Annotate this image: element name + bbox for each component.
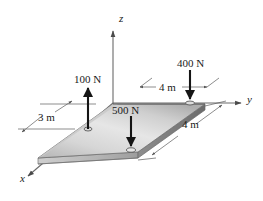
dimension-4m-right-ext-bottom <box>138 158 156 160</box>
engineering-figure: 3 m 4 m 4 m 100 N <box>0 0 263 201</box>
x-axis-label: x <box>19 172 25 184</box>
force-400n-application-point <box>186 101 195 105</box>
force-400n-label: 400 N <box>177 57 204 69</box>
figure-canvas: 3 m 4 m 4 m 100 N <box>0 0 263 201</box>
force-100n-label: 100 N <box>74 73 101 85</box>
dimension-4m-top: 4 m <box>140 78 219 93</box>
dimension-4m-top-ext-right <box>207 78 219 87</box>
dimension-3m-label: 3 m <box>38 111 55 123</box>
dimension-4m-top-label: 4 m <box>159 81 176 93</box>
dimension-4m-top-ext-left <box>140 78 152 87</box>
z-axis-label: z <box>118 12 124 24</box>
force-500n-label: 500 N <box>112 104 139 116</box>
dimension-3m-arrow-upper <box>55 101 72 112</box>
force-400n: 400 N <box>177 57 204 105</box>
force-500n-application-point <box>127 148 136 152</box>
dimension-4m-right-label: 4 m <box>182 118 199 130</box>
y-axis-label: y <box>246 93 252 105</box>
